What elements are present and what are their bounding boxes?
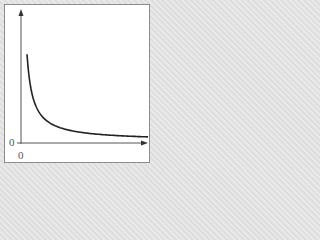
- chart-plot: [0, 0, 156, 170]
- y-axis-arrow-icon: [19, 9, 24, 16]
- inverse-curve: [27, 54, 148, 137]
- x-origin-label: 0: [18, 150, 24, 161]
- x-axis-arrow-icon: [141, 141, 148, 146]
- y-origin-label: 0: [9, 137, 15, 148]
